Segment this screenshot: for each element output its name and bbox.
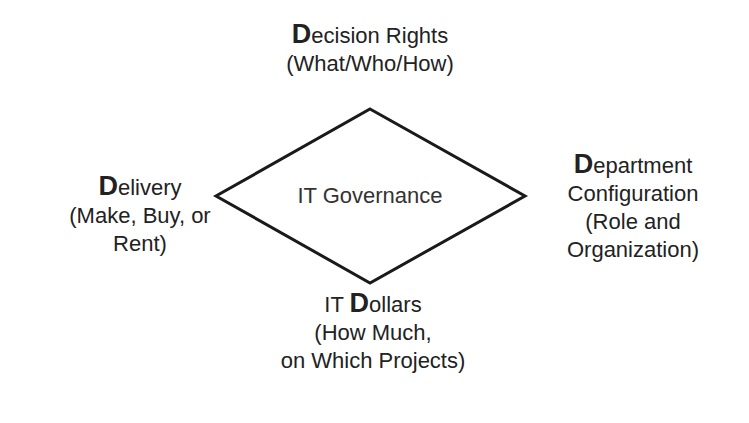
node-decision-rights: Decision Rights (What/Who/How) — [250, 20, 490, 78]
node-subtitle: (How Much, — [248, 319, 498, 347]
node-subtitle: (What/Who/How) — [250, 50, 490, 78]
node-title: IT Dollars — [248, 289, 498, 319]
node-subtitle: Rent) — [25, 230, 255, 258]
node-title: Delivery — [25, 172, 255, 202]
node-delivery: Delivery (Make, Buy, or Rent) — [25, 172, 255, 258]
center-label: IT Governance — [270, 182, 470, 210]
node-subtitle: (Make, Buy, or — [25, 202, 255, 230]
node-it-dollars: IT Dollars (How Much, on Which Projects) — [248, 289, 498, 375]
node-subtitle: (Role and — [528, 208, 738, 236]
node-title: Decision Rights — [250, 20, 490, 50]
node-subtitle: Configuration — [528, 180, 738, 208]
node-title: Department — [528, 150, 738, 180]
node-subtitle: Organization) — [528, 236, 738, 264]
node-department-configuration: Department Configuration (Role and Organ… — [528, 150, 738, 264]
node-subtitle: on Which Projects) — [248, 347, 498, 375]
